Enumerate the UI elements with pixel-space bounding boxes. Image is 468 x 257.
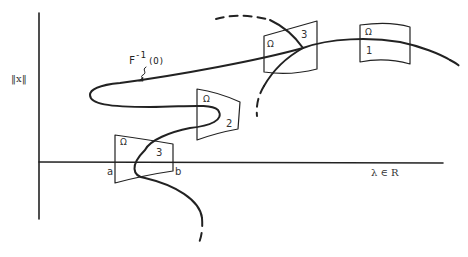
region-3-top-index: 3 (301, 30, 307, 40)
region-3-top-omega: Ω (267, 40, 274, 49)
solution-curve-crossing-dashed-top (216, 16, 270, 20)
x-axis (39, 162, 443, 163)
y-axis-label: ‖x‖ (11, 74, 27, 84)
interval-left-label: a (107, 167, 113, 177)
curve-label: F-1(O) (129, 53, 164, 66)
region-1-index: 1 (366, 46, 372, 56)
solution-curve-lower-dashed (197, 218, 202, 247)
solution-curve-upper-arc-dashed (450, 60, 462, 70)
region-3-bottom-index: 3 (156, 148, 162, 158)
region-2-index: 2 (226, 119, 232, 129)
region-1-omega: Ω (365, 28, 372, 37)
x-axis-label: λ ∈ R (371, 168, 399, 178)
diagram-graphics (0, 0, 468, 257)
region-2-omega: Ω (203, 95, 210, 104)
label-pointer-arrowhead (139, 77, 143, 81)
curve-label-sup: -1 (135, 50, 146, 60)
interval-right-label: b (175, 167, 181, 177)
curve-label-arg: (O) (148, 56, 164, 66)
solution-curve-upper-arc (303, 39, 450, 60)
region-3-bottom-omega: Ω (120, 138, 127, 147)
solution-curve-crossing-dashed-bottom (257, 86, 264, 116)
bifurcation-diagram: ‖x‖ λ ∈ R F-1(O) Ω 3 Ω 1 Ω 2 Ω 3 a b (0, 0, 468, 257)
